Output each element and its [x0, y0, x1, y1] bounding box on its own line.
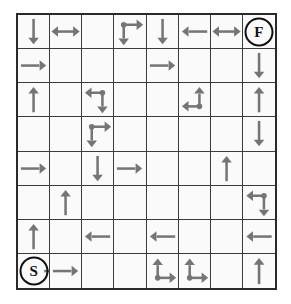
- arrow-down-icon: [243, 49, 275, 82]
- arrow-right-icon: [50, 254, 81, 288]
- grid-cell-empty-r5-c4[interactable]: [147, 186, 179, 220]
- arrow-right-icon: [18, 49, 49, 82]
- grid-cell-r6-c0[interactable]: [18, 220, 50, 254]
- grid-cell-empty-r3-c3[interactable]: [114, 117, 146, 151]
- grid-cell-r1-c0[interactable]: [18, 49, 50, 83]
- grid-cell-r1-c4[interactable]: [147, 49, 179, 83]
- grid-cell-empty-r3-c1[interactable]: [50, 117, 82, 151]
- grid-cell-r0-c5[interactable]: [179, 15, 211, 49]
- puzzle-canvas: FS: [0, 0, 291, 304]
- grid-cell-r7-c1[interactable]: [50, 254, 82, 288]
- puzzle-grid: FS: [16, 13, 277, 290]
- arrow-up-icon: [243, 83, 275, 116]
- arrow-down-icon: [243, 117, 275, 150]
- arrow-left-icon: [82, 220, 113, 253]
- corner-up-right-icon: [147, 254, 178, 288]
- grid-cell-r4-c6[interactable]: [211, 152, 243, 186]
- grid-cell-r3-c2[interactable]: [82, 117, 114, 151]
- grid-cell-empty-r4-c1[interactable]: [50, 152, 82, 186]
- grid-cell-empty-r4-c7[interactable]: [243, 152, 275, 186]
- grid-cell-r0-c7[interactable]: F: [243, 15, 275, 49]
- grid-cell-r0-c1[interactable]: [50, 15, 82, 49]
- arrow-up-icon: [18, 83, 49, 116]
- grid-cell-empty-r3-c6[interactable]: [211, 117, 243, 151]
- grid-cell-r1-c7[interactable]: [243, 49, 275, 83]
- grid-cell-empty-r5-c5[interactable]: [179, 186, 211, 220]
- corner-left-down-icon: [82, 83, 113, 116]
- grid-cell-r2-c7[interactable]: [243, 83, 275, 117]
- arrow-left-icon: [243, 220, 275, 253]
- grid-cell-r3-c7[interactable]: [243, 117, 275, 151]
- arrow-down-icon: [147, 15, 178, 48]
- arrow-left-icon: [179, 15, 210, 48]
- grid-cell-r2-c2[interactable]: [82, 83, 114, 117]
- grid-cell-empty-r0-c2[interactable]: [82, 15, 114, 49]
- grid-cell-empty-r1-c1[interactable]: [50, 49, 82, 83]
- grid-cell-empty-r2-c1[interactable]: [50, 83, 82, 117]
- grid-cell-empty-r2-c6[interactable]: [211, 83, 243, 117]
- grid-cell-r0-c4[interactable]: [147, 15, 179, 49]
- grid-cell-r7-c7[interactable]: [243, 254, 275, 288]
- start-marker: S: [19, 256, 48, 285]
- arrow-down-icon: [18, 15, 49, 48]
- grid-cell-empty-r5-c2[interactable]: [82, 186, 114, 220]
- grid-cell-empty-r6-c6[interactable]: [211, 220, 243, 254]
- corner-down-right-icon: [114, 15, 145, 48]
- arrow-up-icon: [50, 186, 81, 219]
- grid-cell-r6-c4[interactable]: [147, 220, 179, 254]
- corner-up-right-icon: [179, 254, 210, 288]
- grid-cell-r5-c7[interactable]: [243, 186, 275, 220]
- grid-cell-empty-r4-c4[interactable]: [147, 152, 179, 186]
- grid-cell-empty-r6-c1[interactable]: [50, 220, 82, 254]
- grid-cell-r7-c0[interactable]: S: [18, 254, 50, 288]
- arrow-up-icon: [18, 220, 49, 253]
- corner-down-right-icon: [82, 117, 113, 150]
- grid-cell-empty-r1-c2[interactable]: [82, 49, 114, 83]
- arrow-left-right-icon: [211, 15, 242, 48]
- grid-cell-r7-c5[interactable]: [179, 254, 211, 288]
- corner-left-down-icon: [243, 186, 275, 219]
- grid-cell-r6-c2[interactable]: [82, 220, 114, 254]
- grid-cell-empty-r1-c5[interactable]: [179, 49, 211, 83]
- grid-cell-r0-c6[interactable]: [211, 15, 243, 49]
- grid-cell-r0-c0[interactable]: [18, 15, 50, 49]
- arrow-right-icon: [147, 49, 178, 82]
- grid-cell-r2-c5[interactable]: [179, 83, 211, 117]
- grid-cell-empty-r7-c6[interactable]: [211, 254, 243, 288]
- grid-cell-empty-r1-c3[interactable]: [114, 49, 146, 83]
- grid-cell-empty-r4-c5[interactable]: [179, 152, 211, 186]
- arrow-right-icon: [114, 152, 145, 185]
- grid-cell-empty-r5-c0[interactable]: [18, 186, 50, 220]
- arrow-left-icon: [147, 220, 178, 253]
- grid-cell-empty-r1-c6[interactable]: [211, 49, 243, 83]
- grid-cell-r4-c3[interactable]: [114, 152, 146, 186]
- grid-cell-empty-r2-c3[interactable]: [114, 83, 146, 117]
- grid-cell-empty-r3-c0[interactable]: [18, 117, 50, 151]
- corner-left-up-icon: [179, 83, 210, 116]
- finish-marker: F: [244, 17, 273, 46]
- grid-cell-empty-r7-c2[interactable]: [82, 254, 114, 288]
- arrow-up-icon: [211, 152, 242, 185]
- grid-cell-empty-r5-c6[interactable]: [211, 186, 243, 220]
- arrow-up-icon: [243, 254, 275, 288]
- grid-cell-r2-c0[interactable]: [18, 83, 50, 117]
- arrow-left-right-icon: [50, 15, 81, 48]
- arrow-right-icon: [18, 152, 49, 185]
- arrow-down-icon: [82, 152, 113, 185]
- grid-cell-empty-r5-c3[interactable]: [114, 186, 146, 220]
- grid-cell-empty-r2-c4[interactable]: [147, 83, 179, 117]
- grid-cell-r4-c2[interactable]: [82, 152, 114, 186]
- grid-cell-empty-r3-c4[interactable]: [147, 117, 179, 151]
- grid-cell-r5-c1[interactable]: [50, 186, 82, 220]
- grid-cell-empty-r6-c5[interactable]: [179, 220, 211, 254]
- grid-cell-empty-r6-c3[interactable]: [114, 220, 146, 254]
- grid-cell-r0-c3[interactable]: [114, 15, 146, 49]
- grid-cell-empty-r7-c3[interactable]: [114, 254, 146, 288]
- grid-cell-r7-c4[interactable]: [147, 254, 179, 288]
- grid-cell-empty-r3-c5[interactable]: [179, 117, 211, 151]
- grid-cell-r4-c0[interactable]: [18, 152, 50, 186]
- grid-cell-r6-c7[interactable]: [243, 220, 275, 254]
